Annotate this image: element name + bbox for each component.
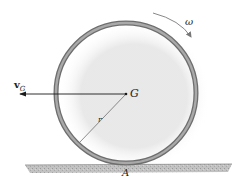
contact-point-label: A — [122, 168, 129, 178]
angular-velocity-label: ω — [185, 17, 193, 27]
rolling-hoop-diagram — [0, 0, 244, 184]
center-point-dot — [125, 93, 128, 96]
velocity-subscript: G — [20, 85, 26, 93]
radius-label: r — [98, 116, 102, 124]
velocity-label: vG — [14, 80, 25, 93]
center-label: G — [130, 88, 139, 99]
